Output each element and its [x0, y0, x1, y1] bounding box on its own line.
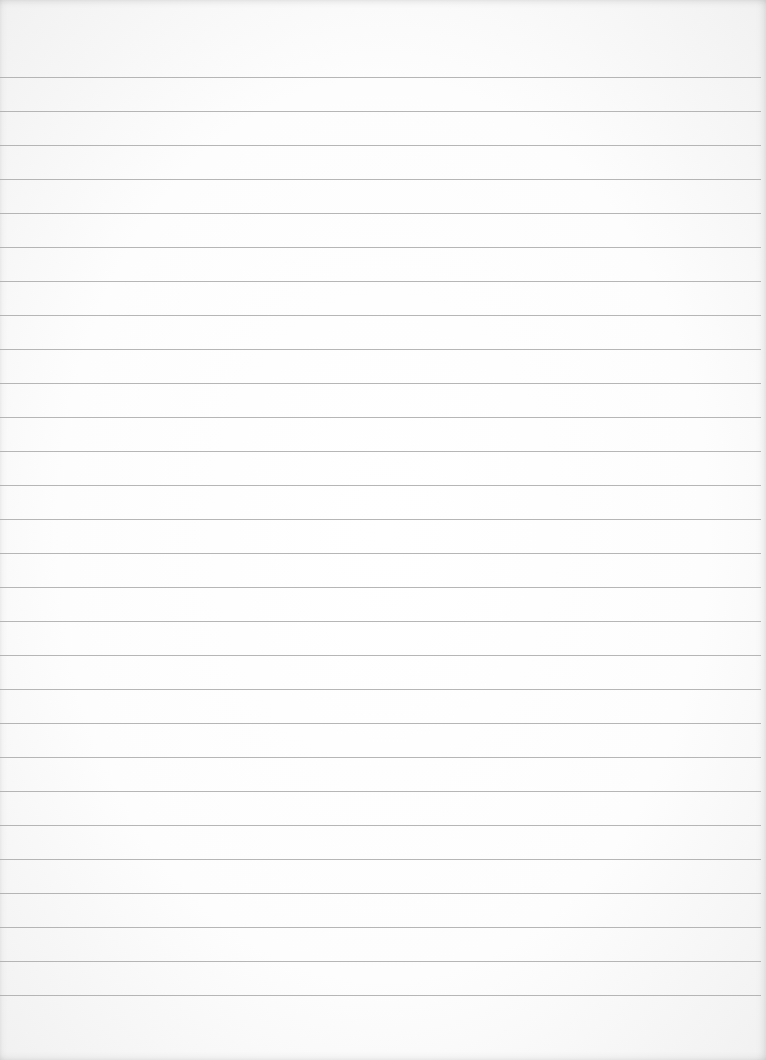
ruled-line	[0, 111, 761, 112]
ruled-line	[0, 995, 761, 996]
ruled-line	[0, 553, 761, 554]
ruled-line	[0, 723, 761, 724]
ruled-line	[0, 791, 761, 792]
ruled-line	[0, 893, 761, 894]
ruled-line	[0, 927, 761, 928]
ruled-line	[0, 281, 761, 282]
ruled-line	[0, 247, 761, 248]
lined-paper-sheet	[0, 0, 766, 1060]
ruled-line	[0, 349, 761, 350]
ruled-line	[0, 961, 761, 962]
ruled-line	[0, 417, 761, 418]
ruled-line	[0, 689, 761, 690]
ruled-line	[0, 621, 761, 622]
ruled-line	[0, 383, 761, 384]
ruled-line	[0, 451, 761, 452]
ruled-line	[0, 213, 761, 214]
ruled-line	[0, 825, 761, 826]
ruled-line	[0, 315, 761, 316]
ruled-line	[0, 145, 761, 146]
ruled-line	[0, 519, 761, 520]
ruled-line	[0, 587, 761, 588]
ruled-line	[0, 859, 761, 860]
ruled-line	[0, 655, 761, 656]
ruled-line	[0, 757, 761, 758]
ruled-line	[0, 485, 761, 486]
ruled-line	[0, 179, 761, 180]
ruled-line	[0, 77, 761, 78]
